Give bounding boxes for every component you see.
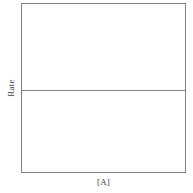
- series-layer: [22, 4, 185, 172]
- chart-figure: Rate [A]: [0, 0, 193, 193]
- plot-area: [21, 3, 186, 173]
- y-axis-title-label: Rate: [5, 79, 15, 96]
- x-axis-title-label: [A]: [97, 177, 110, 187]
- x-axis-title: [A]: [21, 177, 186, 187]
- y-axis-title: Rate: [0, 0, 21, 176]
- series-line-rate: [22, 90, 185, 91]
